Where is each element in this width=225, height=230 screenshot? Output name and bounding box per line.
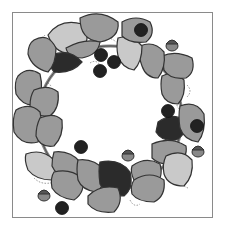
leaf (28, 37, 56, 72)
berry (75, 141, 88, 154)
berry (108, 56, 121, 69)
acorn-right (192, 146, 204, 157)
berry (135, 24, 148, 37)
leaf (139, 44, 164, 78)
berry (95, 49, 108, 62)
berry (94, 65, 107, 78)
acorn-bottom-left (38, 190, 50, 201)
berry (191, 120, 204, 133)
acorn-center-bottom (122, 150, 134, 161)
acorn-top-right (166, 40, 178, 51)
leaf-light (163, 153, 192, 186)
berry (162, 105, 175, 118)
berry (56, 202, 69, 215)
wreath-illustration (0, 0, 225, 230)
leaf (131, 175, 164, 202)
leaf (36, 115, 62, 146)
